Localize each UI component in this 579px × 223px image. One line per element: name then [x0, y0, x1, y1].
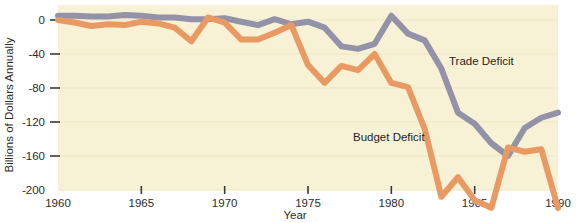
y-tick-label: -120 — [22, 116, 45, 128]
series-label-budget-deficit: Budget Deficit — [353, 131, 425, 143]
x-axis-title: Year — [283, 209, 306, 221]
y-tick-label: -40 — [28, 48, 45, 60]
deficit-line-chart: 0-40-80-120-160-200 19601965197019751980… — [0, 0, 579, 223]
series-label-trade-deficit: Trade Deficit — [449, 55, 515, 67]
y-tick-label: -200 — [22, 184, 45, 196]
y-tick-label: -160 — [22, 150, 45, 162]
x-tick-label: 1965 — [129, 197, 155, 209]
chart-figure: 0-40-80-120-160-200 19601965197019751980… — [0, 0, 579, 223]
y-axis-title: Billions of Dollars Annually — [3, 37, 15, 172]
y-tick-label: -80 — [28, 82, 45, 94]
x-tick-label: 1980 — [379, 197, 405, 209]
x-tick-label: 1970 — [212, 197, 238, 209]
x-tick-label: 1960 — [45, 197, 71, 209]
plot-area-background — [58, 5, 558, 190]
x-tick-label: 1975 — [295, 197, 321, 209]
y-tick-label: 0 — [39, 14, 45, 26]
